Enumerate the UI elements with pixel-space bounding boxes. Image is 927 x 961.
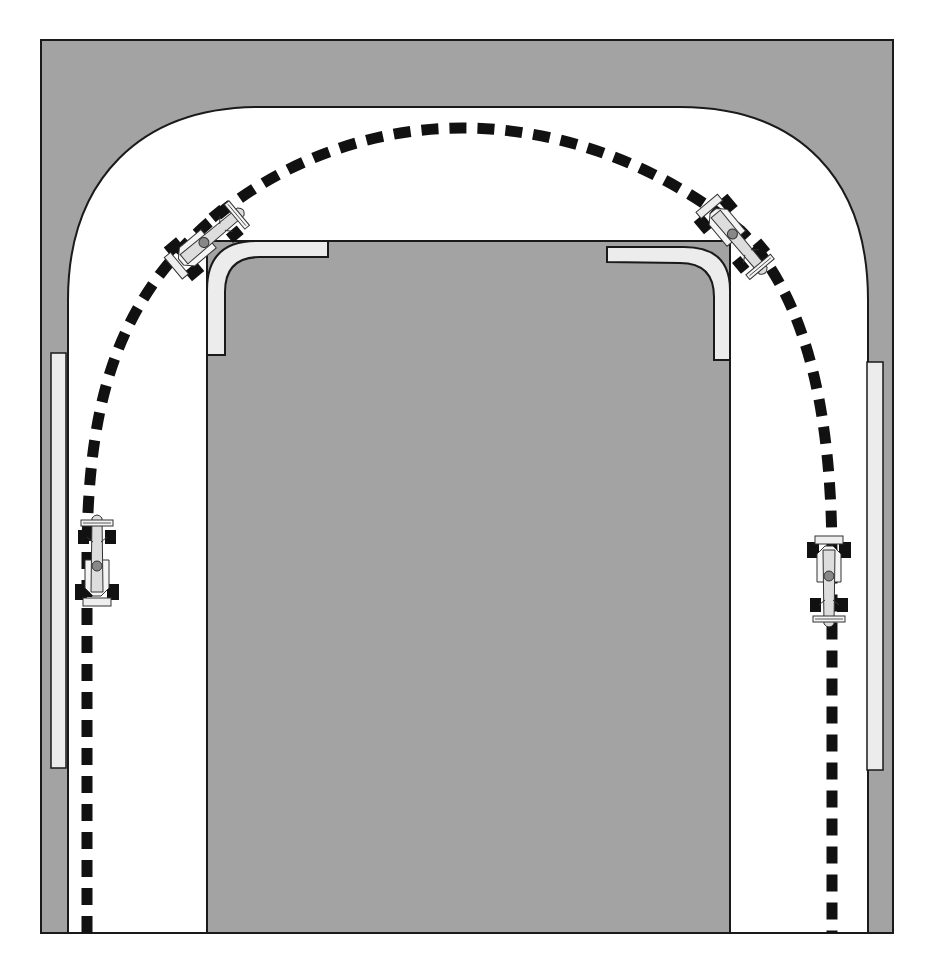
kerb-right (867, 362, 883, 770)
kerb-left (51, 353, 66, 768)
hairpin-diagram: Racing line through a hairpin corner (0, 0, 927, 961)
infield (207, 241, 730, 933)
